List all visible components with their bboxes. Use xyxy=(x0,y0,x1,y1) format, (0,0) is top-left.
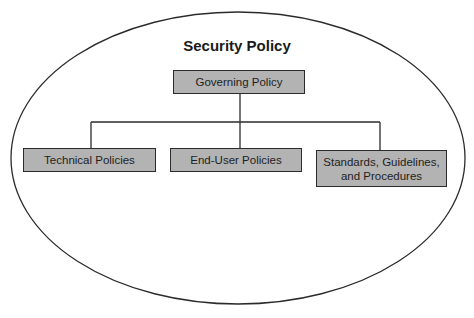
governing-policy-box: Governing Policy xyxy=(173,70,305,94)
security-policy-diagram: Security Policy Governing Policy Technic… xyxy=(0,0,474,318)
end-user-policies-label: End-User Policies xyxy=(190,153,281,167)
technical-policies-box: Technical Policies xyxy=(23,148,156,172)
governing-policy-label: Governing Policy xyxy=(196,75,283,89)
standards-label-line2: and Procedures xyxy=(341,169,422,183)
end-user-policies-box: End-User Policies xyxy=(170,148,302,172)
diagram-title: Security Policy xyxy=(0,37,474,54)
technical-policies-label: Technical Policies xyxy=(44,153,135,167)
standards-label-line1: Standards, Guidelines, xyxy=(323,155,439,169)
standards-guidelines-procedures-box: Standards, Guidelines, and Procedures xyxy=(316,150,447,187)
